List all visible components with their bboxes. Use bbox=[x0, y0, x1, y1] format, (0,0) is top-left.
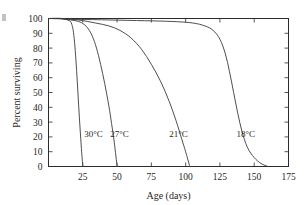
x-tick-label: 75 bbox=[147, 172, 157, 182]
y-tick-label: 20 bbox=[33, 132, 43, 142]
chart-canvas: 2550751001251501750102030405060708090100… bbox=[0, 0, 304, 205]
x-tick-label: 25 bbox=[78, 172, 88, 182]
y-tick-label: 50 bbox=[33, 88, 43, 98]
y-tick-label: 80 bbox=[33, 44, 43, 54]
survival-curve-figure: 2550751001251501750102030405060708090100… bbox=[0, 0, 304, 205]
series-curve-30c bbox=[49, 18, 83, 166]
series-label-2: 21°C bbox=[169, 129, 188, 139]
series-label-1: 27°C bbox=[110, 129, 129, 139]
x-axis-title: Age (days) bbox=[146, 190, 190, 202]
series-curve-27c bbox=[49, 18, 118, 166]
x-tick-label: 150 bbox=[247, 172, 262, 182]
y-tick-label: 30 bbox=[33, 118, 43, 128]
y-axis-title: Percent surviving bbox=[11, 57, 22, 127]
y-tick-label: 100 bbox=[28, 14, 43, 24]
y-tick-label: 0 bbox=[38, 162, 43, 172]
x-tick-label: 50 bbox=[112, 172, 122, 182]
y-tick-label: 10 bbox=[33, 147, 43, 157]
x-tick-label: 100 bbox=[179, 172, 194, 182]
x-tick-label: 175 bbox=[281, 172, 296, 182]
y-tick-label: 60 bbox=[33, 73, 43, 83]
crop-edge-mark bbox=[2, 14, 6, 21]
plot-frame bbox=[49, 19, 289, 167]
series-label-3: 18°C bbox=[236, 129, 255, 139]
y-tick-label: 40 bbox=[33, 103, 43, 113]
x-tick-label: 125 bbox=[213, 172, 228, 182]
series-label-0: 30°C bbox=[84, 129, 103, 139]
y-tick-label: 70 bbox=[33, 58, 43, 68]
series-curve-21c bbox=[49, 18, 190, 166]
y-tick-label: 90 bbox=[33, 29, 43, 39]
